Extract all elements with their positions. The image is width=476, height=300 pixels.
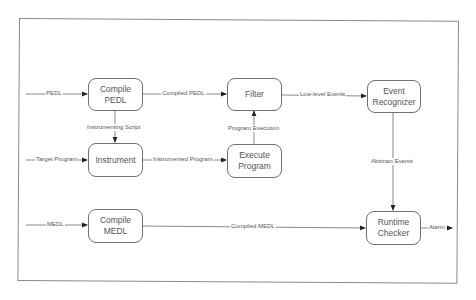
label-instrumenting-script: Instrumenting Script — [86, 124, 141, 131]
node-event-recognizer: Event Recognizer — [367, 80, 421, 113]
label-instrumented-program: Instrumented Program — [152, 156, 214, 163]
node-filter: Filter — [227, 78, 282, 111]
label-low-level-events: Low-level Events — [299, 91, 346, 98]
label-alarm: Alarm — [428, 224, 446, 231]
node-runtime-checker: Runtime Checker — [366, 211, 421, 245]
label-target-program: Target Program — [35, 156, 78, 163]
node-instrument: Instrument — [88, 143, 143, 177]
label-compiled-medl: Compiled MEDL — [230, 223, 276, 230]
node-compile-medl: Compile MEDL — [88, 209, 143, 243]
node-execute-program: Execute Program — [227, 144, 282, 178]
label-pedl: PEDL — [45, 90, 63, 97]
label-compiled-pedl: Compiled PEDL — [161, 90, 206, 97]
label-medl: MEDL — [46, 221, 65, 228]
label-program-execution: Program Execution — [227, 125, 280, 132]
node-compile-pedl: Compile PEDL — [88, 78, 143, 111]
label-abstract-events: Abstract Events — [370, 158, 414, 165]
